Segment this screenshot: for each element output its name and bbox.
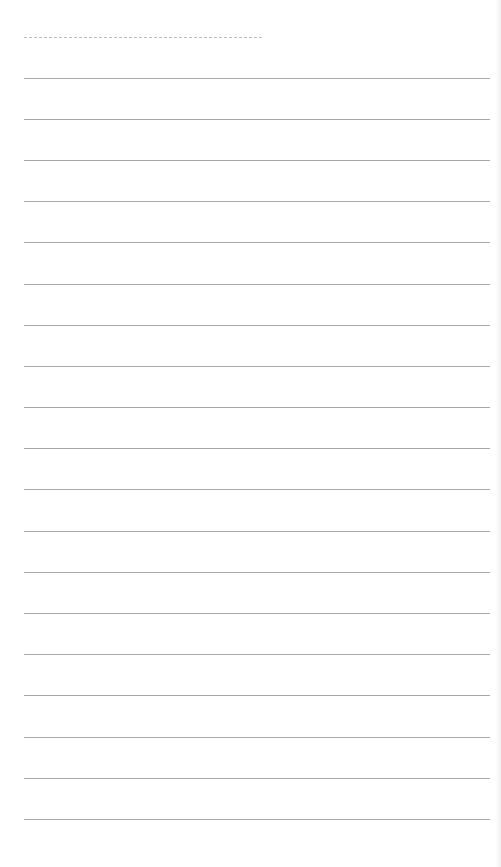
ruled-line	[24, 778, 490, 779]
ruled-line	[24, 201, 490, 202]
ruled-line	[24, 737, 490, 738]
notebook-page	[0, 0, 501, 867]
ruled-line	[24, 572, 490, 573]
ruled-lines-container	[0, 0, 501, 867]
ruled-line	[24, 695, 490, 696]
ruled-line	[24, 119, 490, 120]
ruled-line	[24, 78, 490, 79]
ruled-line	[24, 407, 490, 408]
ruled-line	[24, 160, 490, 161]
ruled-line	[24, 489, 490, 490]
ruled-line	[24, 531, 490, 532]
ruled-line	[24, 366, 490, 367]
ruled-line	[24, 284, 490, 285]
page-edge-shadow	[495, 0, 501, 867]
ruled-line	[24, 613, 490, 614]
ruled-line	[24, 242, 490, 243]
ruled-line	[24, 325, 490, 326]
ruled-line	[24, 654, 490, 655]
ruled-line	[24, 448, 490, 449]
ruled-line	[24, 819, 490, 820]
